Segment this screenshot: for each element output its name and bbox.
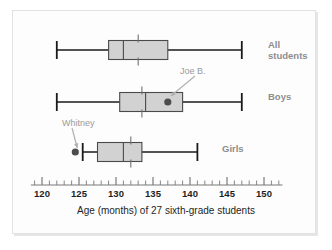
annotation-whitney: Whitney [62,118,95,128]
series-label-all-students: Allstudents [268,40,308,61]
x-axis [31,177,283,185]
x-tick-label-135: 135 [133,188,173,199]
boxplot-all-students [57,35,242,66]
annotation-joe-b: Joe B. [180,66,206,76]
series-label-girls: Girls [222,144,244,155]
marked-point [164,98,171,105]
x-axis-caption: Age (months) of 27 sixth-grade students [0,205,332,216]
x-tick-label-150: 150 [244,188,284,199]
x-tick-label-125: 125 [59,188,99,199]
box-iqr [109,41,168,60]
figure-container: Allstudents Boys Girls Joe B. Whitney Ag… [0,0,332,250]
x-tick-label-120: 120 [22,188,62,199]
x-tick-label-145: 145 [207,188,247,199]
boxplot-boys [57,87,242,118]
outlier-point [72,148,79,155]
series-label-boys: Boys [268,92,291,103]
box-iqr [98,143,142,162]
boxplot-girls [72,137,198,168]
x-tick-label-130: 130 [96,188,136,199]
x-tick-label-140: 140 [170,188,210,199]
